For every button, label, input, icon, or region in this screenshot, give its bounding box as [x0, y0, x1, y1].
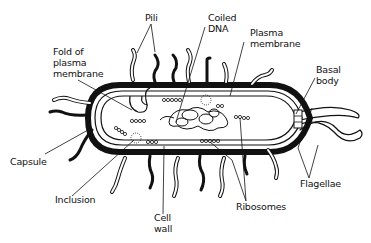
leader-cell-wall — [163, 146, 164, 214]
label-ribosomes: Ribosomes — [236, 201, 286, 212]
ribosome-cluster-3 — [114, 126, 126, 135]
cell-wall-outline — [95, 91, 302, 145]
ribosome-cluster-1 — [162, 98, 181, 101]
leader-capsule — [45, 130, 88, 154]
label-coiled-dna: Coiled DNA — [208, 12, 236, 34]
label-basal-body: Basal body — [316, 64, 341, 86]
label-flagellae: Flagellae — [300, 178, 341, 189]
basal-body — [294, 110, 302, 128]
label-capsule: Capsule — [10, 156, 47, 167]
label-fold-of-plasma-membrane: Fold of plasma membrane — [53, 46, 103, 79]
ribosome-cluster-2 — [130, 119, 145, 122]
cell-illustration — [0, 0, 371, 243]
label-pili: Pili — [145, 12, 158, 23]
bacterial-cell-diagram: Pili Fold of plasma membrane Coiled DNA … — [0, 0, 371, 243]
ribosome-cluster-4 — [146, 140, 157, 143]
label-inclusion: Inclusion — [55, 194, 95, 205]
ribosome-cluster-5 — [234, 115, 249, 119]
ribosomes — [114, 98, 249, 143]
label-cell-wall: Cell wall — [154, 212, 172, 234]
ribosome-cluster-7 — [216, 104, 223, 107]
coiled-dna — [160, 107, 228, 130]
label-plasma-membrane: Plasma membrane — [250, 27, 300, 49]
membrane-fold — [130, 88, 150, 112]
leader-pili — [137, 24, 155, 53]
leader-ribosomes — [210, 118, 246, 201]
